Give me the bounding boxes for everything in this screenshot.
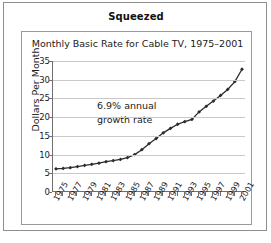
gridline — [53, 136, 245, 137]
data-point-marker — [104, 160, 108, 164]
x-axis-tick-labels: 1975197719791981198319851987198919911993… — [52, 198, 252, 228]
y-axis-tick-label: 25 — [30, 94, 50, 102]
data-point-marker — [97, 161, 101, 165]
chart-title: Monthly Basic Rate for Cable TV, 1975–20… — [22, 38, 253, 49]
data-point-marker — [183, 120, 187, 124]
data-point-marker — [54, 167, 58, 171]
data-point-marker — [111, 159, 115, 163]
plot-area: 6.9% annual growth rate — [52, 61, 244, 192]
gridline — [53, 155, 245, 156]
data-point-marker — [61, 167, 65, 171]
data-point-marker — [68, 166, 72, 170]
figure-title: Squeezed — [4, 11, 268, 22]
data-point-marker — [126, 156, 130, 160]
y-axis-tick-label: 5 — [30, 169, 50, 177]
chart-panel: Monthly Basic Rate for Cable TV, 1975–20… — [21, 31, 252, 225]
y-axis-tick-label: 30 — [30, 76, 50, 84]
y-axis-tick-label: 35 — [30, 57, 50, 65]
data-point-marker — [90, 162, 94, 166]
gridline — [53, 173, 245, 174]
gridline — [53, 61, 245, 62]
data-point-marker — [83, 164, 87, 168]
y-axis-tick-label: 10 — [30, 151, 50, 159]
figure-outer-frame: Squeezed Monthly Basic Rate for Cable TV… — [3, 2, 267, 231]
data-point-marker — [118, 158, 122, 162]
y-axis-tick-label: 15 — [30, 132, 50, 140]
figure-container: Squeezed Monthly Basic Rate for Cable TV… — [0, 0, 271, 243]
gridline — [53, 80, 245, 81]
gridline — [53, 117, 245, 118]
y-axis-tick-labels: 05101520253035 — [26, 61, 50, 192]
growth-rate-annotation: 6.9% annual growth rate — [97, 99, 157, 127]
y-axis-tick-label: 0 — [30, 188, 50, 196]
y-axis-tick-label: 20 — [30, 113, 50, 121]
data-point-marker — [76, 165, 80, 169]
gridline — [53, 98, 245, 99]
